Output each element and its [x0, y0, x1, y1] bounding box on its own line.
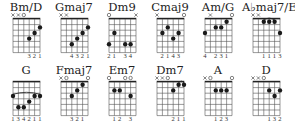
finger-dot: [267, 88, 271, 92]
finger-dot: [70, 94, 74, 98]
muted-string-icon: [257, 13, 260, 16]
finger-dot: [75, 88, 79, 92]
finger-dot: [22, 105, 26, 109]
chord-diagram: D132: [242, 63, 290, 125]
finger-dot: [32, 31, 36, 35]
finger-dot: [128, 94, 132, 98]
finger-number: 4: [22, 115, 25, 122]
chord-diagram: A♭maj7/E♭1113: [242, 0, 290, 62]
open-string-icon: [124, 76, 127, 79]
fretboard-grid: [50, 0, 98, 62]
muted-string-icon: [17, 13, 20, 16]
open-string-icon: [86, 76, 89, 79]
muted-string-icon: [155, 13, 158, 16]
open-string-icon: [166, 76, 169, 79]
open-string-icon: [129, 76, 132, 79]
fretboard-grid: [2, 63, 50, 125]
finger-number: 3: [70, 115, 73, 122]
finger-dot: [112, 88, 116, 92]
chord-diagram: Dm92134: [98, 0, 146, 62]
finger-dot: [219, 88, 223, 92]
open-string-icon: [107, 13, 110, 16]
open-string-icon: [209, 76, 212, 79]
fretboard-grid: [242, 63, 290, 125]
open-string-icon: [182, 13, 185, 16]
finger-dot: [27, 36, 31, 40]
open-string-icon: [65, 76, 68, 79]
finger-number: 2: [171, 115, 174, 122]
finger-number: 2: [118, 115, 121, 122]
muted-string-icon: [203, 76, 206, 79]
finger-number: 2: [219, 115, 222, 122]
finger-number: 1: [273, 52, 276, 59]
finger-number: 2: [33, 52, 36, 59]
fretboard-grid: [98, 63, 146, 125]
finger-number: 1: [113, 52, 116, 59]
finger-number: 1: [262, 52, 265, 59]
finger-dot: [278, 88, 282, 92]
finger-dot: [214, 88, 218, 92]
muted-string-icon: [251, 13, 254, 16]
chord-diagram: Dm7211: [146, 63, 194, 125]
finger-dot: [166, 25, 170, 29]
chord-diagram: Am/G4231: [194, 0, 242, 62]
finger-dot: [86, 25, 90, 29]
finger-dot: [11, 94, 15, 98]
finger-number: 3: [27, 52, 30, 59]
finger-dot: [272, 20, 276, 24]
finger-number: 3: [177, 52, 180, 59]
open-string-icon: [22, 13, 25, 16]
finger-dot: [80, 31, 84, 35]
finger-number: 4: [203, 52, 206, 59]
finger-dot: [224, 20, 228, 24]
finger-number: 1: [225, 52, 228, 59]
finger-dot: [214, 25, 218, 29]
finger-number: 3: [129, 115, 132, 122]
finger-number: 1: [166, 52, 169, 59]
finger-number: 3: [123, 52, 126, 59]
finger-dot: [171, 36, 175, 40]
finger-number: 1: [33, 115, 36, 122]
finger-number: 1: [214, 115, 217, 122]
finger-number: 2: [75, 115, 78, 122]
finger-number: 4: [129, 52, 132, 59]
finger-number: 4: [70, 52, 73, 59]
muted-string-icon: [251, 76, 254, 79]
muted-string-icon: [11, 13, 14, 16]
finger-dot: [27, 99, 31, 103]
fretboard-grid: [50, 63, 98, 125]
finger-number: 2: [81, 52, 84, 59]
finger-number: 2: [214, 52, 217, 59]
finger-dot: [224, 88, 228, 92]
fretboard-grid: [2, 0, 50, 62]
finger-dot: [128, 42, 132, 46]
chord-diagram: Em7123: [98, 63, 146, 125]
finger-number: 4: [171, 52, 174, 59]
finger-dot: [16, 105, 20, 109]
finger-number: 1: [11, 115, 14, 122]
muted-string-icon: [161, 76, 164, 79]
finger-number: 2: [278, 115, 281, 122]
fretboard-grid: [194, 0, 242, 62]
open-string-icon: [107, 76, 110, 79]
finger-number: 1: [182, 115, 185, 122]
fretboard-grid: [242, 0, 290, 62]
muted-string-icon: [257, 76, 260, 79]
finger-dot: [176, 31, 180, 35]
open-string-icon: [230, 13, 233, 16]
finger-dot: [38, 94, 42, 98]
finger-dot: [112, 31, 116, 35]
finger-number: 1: [81, 115, 84, 122]
finger-number: 1: [267, 52, 270, 59]
finger-number: 1: [267, 115, 270, 122]
finger-number: 3: [219, 52, 222, 59]
muted-string-icon: [134, 13, 137, 16]
finger-dot: [278, 31, 282, 35]
finger-dot: [176, 83, 180, 87]
finger-number: 3: [225, 115, 228, 122]
finger-number: 2: [161, 52, 164, 59]
muted-string-icon: [155, 76, 158, 79]
fretboard-grid: [194, 63, 242, 125]
finger-dot: [160, 31, 164, 35]
finger-dot: [123, 42, 127, 46]
